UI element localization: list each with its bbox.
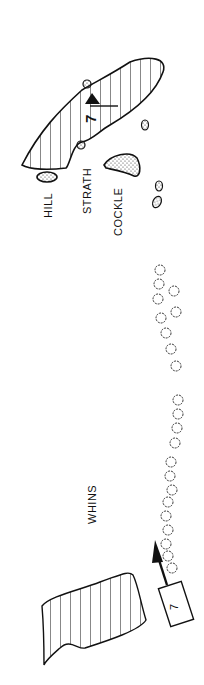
gorse-bush-icon — [153, 294, 163, 304]
gorse-bush-icon — [166, 344, 176, 354]
gorse-bush-icon — [167, 485, 177, 495]
green — [22, 58, 164, 169]
gorse-bush-icon — [169, 286, 179, 296]
hole-number: 7 — [82, 115, 99, 123]
golf-hole-map: 7 HILL STRATH COCKLE WHINS — [0, 0, 204, 685]
gorse-bush-icon — [163, 497, 173, 507]
gorse-bush-icon — [161, 328, 171, 338]
bunker-icon — [151, 195, 163, 209]
gorse-bush-icon — [167, 563, 177, 573]
gorse-bush-icon — [172, 423, 182, 433]
gorse-bush-icon — [154, 279, 164, 289]
bunker-icon — [156, 181, 163, 191]
gorse-bush-icon — [155, 265, 165, 275]
cockle-bunker — [104, 154, 140, 176]
label-cockle: COCKLE — [112, 188, 124, 236]
whins-bushes — [153, 265, 183, 573]
gorse-bush-icon — [163, 551, 173, 561]
gorse-bush-icon — [163, 525, 173, 535]
gorse-bush-icon — [171, 361, 181, 371]
label-whins: WHINS — [86, 485, 98, 524]
label-strath: STRATH — [81, 168, 93, 214]
gorse-bush-icon — [161, 511, 171, 521]
gorse-bush-icon — [156, 313, 166, 323]
gorse-bush-icon — [170, 438, 180, 448]
bunker-icon — [77, 141, 85, 149]
tee-number: 7 — [168, 604, 180, 610]
bunker-icon — [142, 120, 149, 130]
gorse-bush-icon — [173, 409, 183, 419]
fairway-hatched-area — [42, 573, 146, 665]
gorse-bush-icon — [171, 307, 181, 317]
gorse-bush-icon — [166, 457, 176, 467]
gorse-bush-icon — [173, 395, 183, 405]
label-hill: HILL — [42, 193, 54, 218]
gorse-bush-icon — [165, 471, 175, 481]
hill-bunker — [37, 172, 57, 182]
bunker-icon — [83, 80, 91, 88]
gorse-bush-icon — [161, 539, 171, 549]
